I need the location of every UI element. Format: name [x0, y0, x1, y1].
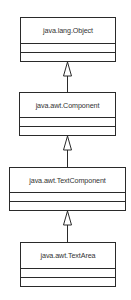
operations-compartment — [10, 202, 125, 210]
attributes-compartment — [21, 44, 115, 53]
uml-class-textcomponent[interactable]: java.awt.TextComponent — [9, 167, 126, 211]
uml-class-component[interactable]: java.awt.Component — [19, 92, 116, 136]
operations-compartment — [21, 53, 115, 61]
uml-class-object[interactable]: java.lang.Object — [20, 17, 116, 62]
generalization-arrow-textarea-to-textcomponent — [64, 211, 72, 242]
operations-compartment — [21, 278, 115, 286]
generalization-arrow-textcomponent-to-component — [64, 136, 72, 167]
attributes-compartment — [20, 118, 115, 127]
uml-class-textarea[interactable]: java.awt.TextArea — [20, 242, 116, 287]
generalization-arrow-component-to-object — [64, 62, 72, 92]
class-name: java.awt.Component — [20, 93, 115, 118]
class-name: java.lang.Object — [21, 18, 115, 44]
attributes-compartment — [21, 269, 115, 278]
class-name: java.awt.TextComponent — [10, 168, 125, 193]
attributes-compartment — [10, 193, 125, 202]
operations-compartment — [20, 127, 115, 135]
class-name: java.awt.TextArea — [21, 243, 115, 269]
